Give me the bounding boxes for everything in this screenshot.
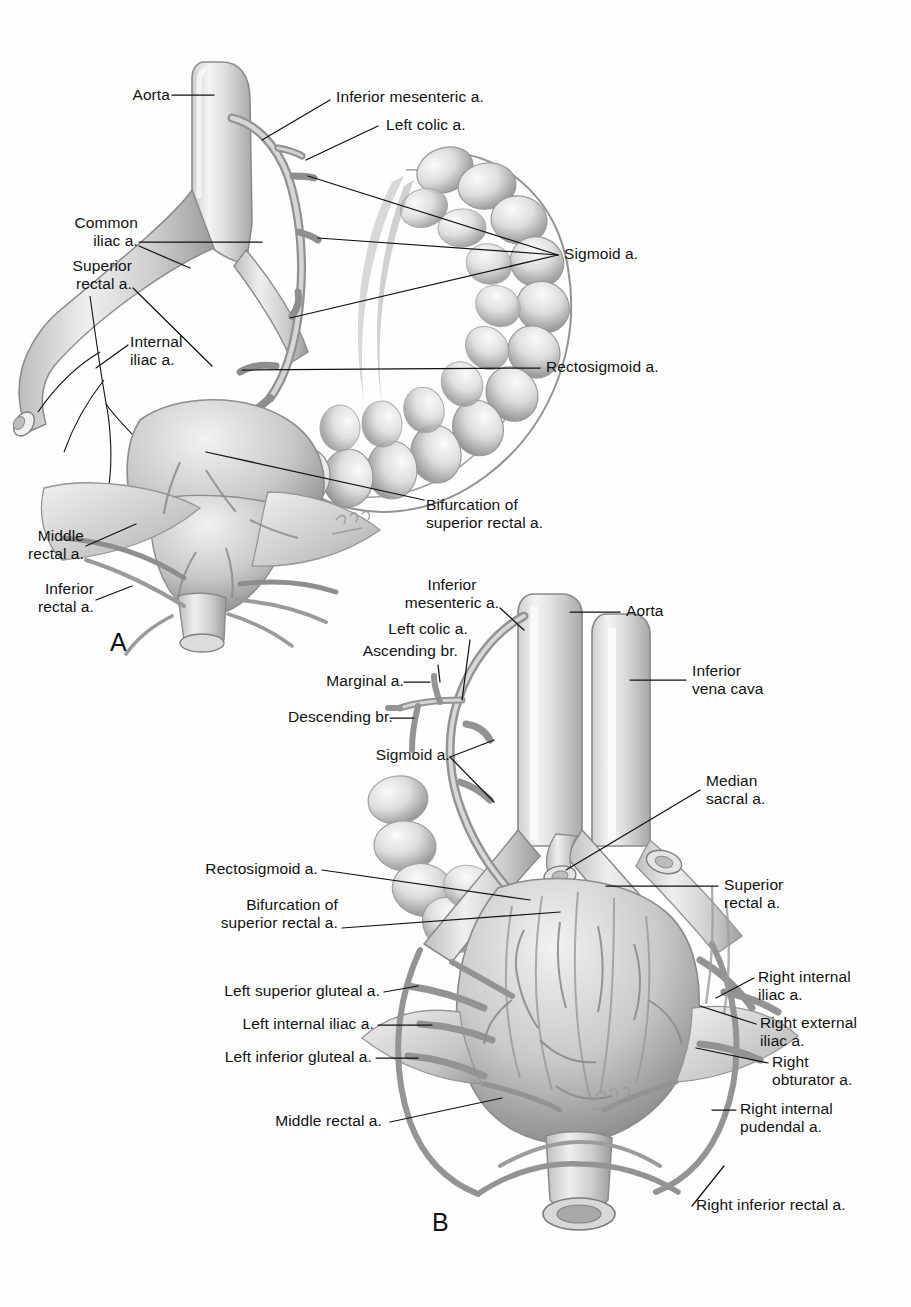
label-b-right-internal-pudendal-a: Right internal pudendal a. <box>740 1100 833 1136</box>
label-b-marginal-a: Marginal a. <box>308 672 404 690</box>
label-b-bifurcation-of-superior-rectal-a: Bifurcation of superior rectal a. <box>150 896 338 932</box>
label-b-superior-rectal-a: Superior rectal a. <box>724 876 783 912</box>
label-a-rectosigmoid-a: Rectosigmoid a. <box>546 358 659 376</box>
label-b-right-external-iliac-a: Right external iliac a. <box>760 1014 857 1050</box>
label-a-left-colic-a: Left colic a. <box>386 116 466 134</box>
label-b-inferior-vena-cava: Inferior vena cava <box>692 662 764 698</box>
panel-a-artwork <box>9 62 579 654</box>
panel-letter-a: A <box>110 628 127 657</box>
label-b-left-superior-gluteal-a: Left superior gluteal a. <box>190 982 380 1000</box>
label-a-superior-rectal-a: Superior rectal a. <box>10 257 132 293</box>
label-b-median-sacral-a: Median sacral a. <box>706 772 765 808</box>
label-a-sigmoid-a: Sigmoid a. <box>564 245 638 263</box>
label-a-inferior-mesenteric-a: Inferior mesenteric a. <box>336 88 484 106</box>
label-b-ascending-br: Ascending br. <box>346 642 458 660</box>
label-b-inferior-mesenteric-a: Inferior mesenteric a. <box>394 576 510 612</box>
label-a-internal-iliac-a: Internal iliac a. <box>130 333 183 369</box>
label-a-common-iliac-a: Common iliac a. <box>10 214 138 250</box>
label-b-sigmoid-a: Sigmoid a. <box>354 746 450 764</box>
label-b-right-inferior-rectal-a: Right inferior rectal a. <box>696 1196 846 1214</box>
label-b-aorta: Aorta <box>626 602 664 620</box>
label-b-middle-rectal-a: Middle rectal a. <box>230 1112 382 1130</box>
label-b-left-inferior-gluteal-a: Left inferior gluteal a. <box>196 1048 372 1066</box>
label-b-right-internal-iliac-a: Right internal iliac a. <box>758 968 851 1004</box>
panel-letter-b: B <box>432 1208 449 1237</box>
label-a-aorta: Aorta <box>58 86 170 104</box>
label-b-rectosigmoid-a: Rectosigmoid a. <box>150 860 318 878</box>
label-b-right-obturator-a: Right obturator a. <box>772 1053 852 1089</box>
label-b-left-internal-iliac-a: Left internal iliac a. <box>210 1015 374 1033</box>
label-a-inferior-rectal-a: Inferior rectal a. <box>2 580 94 616</box>
label-a-bifurcation-of-superior-rectal-a: Bifurcation of superior rectal a. <box>426 496 543 532</box>
label-b-left-colic-a: Left colic a. <box>360 620 468 638</box>
figure-canvas: Aorta Inferior mesenteric a. Left colic … <box>0 0 911 1307</box>
label-a-middle-rectal-a: Middle rectal a. <box>2 527 84 563</box>
label-b-descending-br: Descending br. <box>288 708 390 726</box>
